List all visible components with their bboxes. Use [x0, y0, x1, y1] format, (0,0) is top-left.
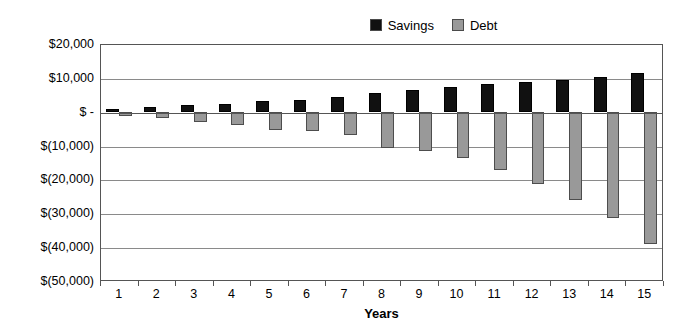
x-axis-tick-label-5: 5: [265, 288, 272, 301]
y-axis-tick-label: $(10,000): [0, 139, 94, 152]
x-axis-tick-label-4: 4: [228, 288, 235, 301]
bar-savings-year-14[interactable]: [594, 77, 607, 112]
y-axis-tick-label: $(40,000): [0, 241, 94, 254]
bar-savings-year-9[interactable]: [406, 90, 419, 112]
bar-debt-year-7[interactable]: [344, 112, 357, 135]
x-axis-tick-label-6: 6: [303, 288, 310, 301]
x-axis-tick-mark: [513, 281, 514, 286]
x-axis-tick-mark: [588, 281, 589, 286]
y-axis-tick-label: $(30,000): [0, 207, 94, 220]
bar-savings-year-5[interactable]: [256, 101, 269, 111]
x-axis-tick-mark: [325, 281, 326, 286]
bar-savings-year-4[interactable]: [219, 104, 232, 112]
bar-group-year-2: [138, 44, 176, 281]
bar-savings-year-13[interactable]: [556, 80, 569, 112]
x-axis-tick-mark: [438, 281, 439, 286]
y-axis-tick-label: $(20,000): [0, 173, 94, 186]
bar-group-year-7: [325, 44, 363, 281]
bar-group-year-3: [175, 44, 213, 281]
legend-entry-savings[interactable]: Savings: [370, 19, 434, 32]
bar-group-year-11: [475, 44, 513, 281]
bar-debt-year-5[interactable]: [269, 112, 282, 130]
legend-label: Savings: [388, 19, 434, 32]
x-axis-tick-mark: [363, 281, 364, 286]
bar-savings-year-2[interactable]: [144, 107, 157, 111]
bar-savings-year-7[interactable]: [331, 97, 344, 112]
x-axis-tick-label-15: 15: [637, 288, 651, 301]
x-axis-title: Years: [100, 307, 663, 320]
x-axis-tick-mark: [175, 281, 176, 286]
bar-savings-year-12[interactable]: [519, 82, 532, 112]
y-axis-tick-label: $20,000: [0, 38, 94, 51]
bar-group-year-6: [288, 44, 326, 281]
x-axis-tick-mark: [100, 281, 101, 286]
zero-axis-line: [101, 113, 662, 114]
x-axis-tick-mark: [550, 281, 551, 286]
x-axis-tick-mark: [213, 281, 214, 286]
x-axis-tick-label-9: 9: [416, 288, 423, 301]
bar-group-year-12: [513, 44, 551, 281]
y-axis-tick-label: $(50,000): [0, 275, 94, 288]
bar-savings-year-8[interactable]: [369, 93, 382, 112]
bar-group-year-10: [438, 44, 476, 281]
x-axis-tick-label-12: 12: [525, 288, 539, 301]
x-axis-tick-mark: [288, 281, 289, 286]
x-axis-tick-label-2: 2: [153, 288, 160, 301]
x-axis-tick-label-10: 10: [450, 288, 464, 301]
bar-debt-year-10[interactable]: [457, 112, 470, 159]
bar-group-year-1: [100, 44, 138, 281]
x-axis-tick-mark: [475, 281, 476, 286]
legend-swatch-icon: [452, 19, 464, 31]
bar-savings-year-1[interactable]: [106, 109, 119, 112]
bar-savings-year-6[interactable]: [294, 100, 307, 112]
x-axis-tick-label-11: 11: [488, 288, 501, 301]
x-axis-tick-mark: [625, 281, 626, 286]
bar-group-year-8: [363, 44, 401, 281]
bar-debt-year-15[interactable]: [644, 112, 657, 244]
x-axis-labels: 123456789101112131415: [100, 288, 663, 304]
bar-savings-year-15[interactable]: [631, 73, 644, 111]
bar-group-year-9: [400, 44, 438, 281]
bars-layer: [100, 44, 663, 281]
y-axis-tick-label: $10,000: [0, 72, 94, 85]
x-axis-tick-label-3: 3: [190, 288, 197, 301]
y-axis-tick-label: $ -: [0, 105, 94, 118]
legend-swatch-icon: [370, 19, 382, 31]
x-axis-tick-mark: [400, 281, 401, 286]
bar-group-year-4: [213, 44, 251, 281]
x-axis-tick-label-14: 14: [600, 288, 614, 301]
x-axis-tick-label-1: 1: [115, 288, 122, 301]
x-axis-tick-mark: [250, 281, 251, 286]
bar-savings-year-10[interactable]: [444, 87, 457, 112]
bar-savings-year-11[interactable]: [481, 84, 494, 112]
bar-debt-year-13[interactable]: [569, 112, 582, 200]
bar-savings-year-3[interactable]: [181, 105, 194, 112]
x-axis-tick-label-13: 13: [562, 288, 576, 301]
bar-group-year-5: [250, 44, 288, 281]
legend-entry-debt[interactable]: Debt: [452, 19, 497, 32]
x-axis-tick-label-8: 8: [378, 288, 385, 301]
legend-label: Debt: [470, 19, 497, 32]
x-axis-tick-mark: [663, 281, 664, 286]
bar-group-year-15: [625, 44, 663, 281]
bar-group-year-14: [588, 44, 626, 281]
bar-debt-year-12[interactable]: [532, 112, 545, 184]
bar-debt-year-8[interactable]: [381, 112, 394, 149]
bar-debt-year-6[interactable]: [306, 112, 319, 131]
bar-group-year-13: [550, 44, 588, 281]
bar-debt-year-9[interactable]: [419, 112, 432, 152]
bar-debt-year-11[interactable]: [494, 112, 507, 170]
chart-container: SavingsDebt $20,000$10,000$ -$(10,000)$(…: [0, 0, 697, 326]
bar-debt-year-14[interactable]: [607, 112, 620, 219]
x-axis-tick-mark: [138, 281, 139, 286]
y-axis-labels: $20,000$10,000$ -$(10,000)$(20,000)$(30,…: [0, 0, 94, 326]
chart-legend: SavingsDebt: [0, 14, 697, 36]
x-axis-tick-label-7: 7: [340, 288, 347, 301]
